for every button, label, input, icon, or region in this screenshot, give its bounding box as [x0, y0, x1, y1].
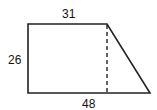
top-side-label: 31: [62, 7, 76, 21]
bottom-side-label: 48: [82, 97, 96, 110]
trapezoid-shape: [28, 24, 150, 93]
left-side-label: 26: [8, 53, 22, 67]
trapezoid-diagram: 31 26 48: [0, 0, 157, 110]
